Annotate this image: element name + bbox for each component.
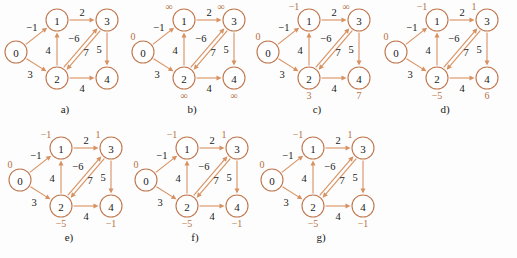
distance-label-node-2: −5 <box>56 218 67 229</box>
graph-node-2[interactable]: 2 <box>50 195 72 217</box>
graph-node-3[interactable]: 3 <box>352 137 374 159</box>
graph-canvas-d: −1324−6754013240−11−56 <box>380 0 510 100</box>
edge-weight-3-2: −6 <box>72 161 83 172</box>
distance-label-node-3: 1 <box>472 1 477 12</box>
edge-weight-1-3: 2 <box>459 7 464 18</box>
edge-weight-2-4: 4 <box>459 83 465 94</box>
node-label-1: 1 <box>58 143 64 155</box>
edge-2-to-1 <box>59 161 64 194</box>
distance-label-node-3: 1 <box>222 129 227 140</box>
graph-node-3[interactable]: 3 <box>223 9 245 31</box>
edge-weight-2-1: 4 <box>45 45 51 56</box>
graph-node-1[interactable]: 1 <box>426 9 448 31</box>
graph-node-3[interactable]: 3 <box>96 9 118 31</box>
graph-node-2[interactable]: 2 <box>46 67 68 89</box>
edge-2-to-1 <box>182 33 187 66</box>
distance-label-node-0: 0 <box>8 159 13 170</box>
node-label-3: 3 <box>108 143 114 155</box>
distance-label-node-4: −1 <box>232 218 243 229</box>
graph-node-3[interactable]: 3 <box>476 9 498 31</box>
edge-1-to-3-arrowhead <box>220 146 225 151</box>
distance-label-node-3: 1 <box>96 129 101 140</box>
graph-node-2[interactable]: 2 <box>298 67 320 89</box>
node-label-1: 1 <box>181 15 187 27</box>
distance-label-node-2: −5 <box>432 90 443 101</box>
distance-label-node-4: −1 <box>106 218 117 229</box>
edge-3-to-4-arrowhead <box>361 189 366 194</box>
edge-2-to-4 <box>74 204 99 209</box>
edge-2-to-4-arrowhead <box>217 76 222 81</box>
distance-label-node-1: ∞ <box>165 1 172 12</box>
graph-node-1[interactable]: 1 <box>50 137 72 159</box>
node-label-3: 3 <box>104 15 110 27</box>
edge-3-to-4 <box>232 33 237 66</box>
edge-weight-3-2: −6 <box>68 33 79 44</box>
distance-label-node-0: 0 <box>131 31 136 42</box>
graph-canvas-b: −1324−6754013240∞∞∞∞ <box>127 0 257 100</box>
graph-node-4[interactable]: 4 <box>352 195 374 217</box>
edge-3-to-4 <box>105 33 110 66</box>
panel-caption-g: g) <box>256 231 386 243</box>
edge-2-to-4 <box>326 204 351 209</box>
graph-node-2[interactable]: 2 <box>176 195 198 217</box>
panel-caption-c: c) <box>252 103 382 115</box>
graph-node-4[interactable]: 4 <box>226 195 248 217</box>
graph-node-0[interactable]: 0 <box>9 169 31 191</box>
distance-label-node-1: −1 <box>41 129 52 140</box>
edge-1-to-3 <box>70 18 95 23</box>
edge-2-to-1-arrowhead <box>435 33 440 38</box>
edge-weight-0-1: −1 <box>406 22 417 33</box>
graph-node-0[interactable]: 0 <box>135 169 157 191</box>
graph-node-1[interactable]: 1 <box>173 9 195 31</box>
node-label-3: 3 <box>484 15 490 27</box>
graph-node-0[interactable]: 0 <box>261 169 283 191</box>
graph-node-4[interactable]: 4 <box>476 67 498 89</box>
distance-label-node-4: ∞ <box>230 90 237 101</box>
edge-weight-0-2: 3 <box>407 69 412 80</box>
graph-node-2[interactable]: 2 <box>302 195 324 217</box>
edge-weight-1-3: 2 <box>331 7 336 18</box>
edge-weight-0-1: −1 <box>282 150 293 161</box>
edge-2-to-1 <box>185 161 190 194</box>
node-label-0: 0 <box>269 175 275 187</box>
edge-weight-3-2: −6 <box>448 33 459 44</box>
graph-node-4[interactable]: 4 <box>96 67 118 89</box>
edge-2-to-4 <box>450 76 475 81</box>
graph-node-2[interactable]: 2 <box>173 67 195 89</box>
graph-canvas-f: −1324−6754013240−11−5−1 <box>130 128 260 228</box>
graph-node-4[interactable]: 4 <box>348 67 370 89</box>
distance-label-node-4: 7 <box>357 90 362 101</box>
graph-node-0[interactable]: 0 <box>385 41 407 63</box>
edge-3-to-4 <box>485 33 490 66</box>
distance-label-node-4: −1 <box>358 218 369 229</box>
graph-node-1[interactable]: 1 <box>46 9 68 31</box>
graph-node-1[interactable]: 1 <box>176 137 198 159</box>
graph-node-0[interactable]: 0 <box>5 41 27 63</box>
graph-node-4[interactable]: 4 <box>100 195 122 217</box>
graph-node-4[interactable]: 4 <box>223 67 245 89</box>
edge-weight-0-1: −1 <box>156 150 167 161</box>
graph-node-3[interactable]: 3 <box>100 137 122 159</box>
edge-weight-2-3: 7 <box>339 175 344 186</box>
distance-label-node-4: 6 <box>485 90 490 101</box>
graph-node-0[interactable]: 0 <box>257 41 279 63</box>
distance-label-node-2: 3 <box>307 90 312 101</box>
graph-node-1[interactable]: 1 <box>302 137 324 159</box>
node-label-3: 3 <box>231 15 237 27</box>
graph-node-2[interactable]: 2 <box>426 67 448 89</box>
edge-weight-0-2: 3 <box>279 69 284 80</box>
edge-3-to-4 <box>109 161 114 194</box>
node-label-4: 4 <box>108 201 114 213</box>
graph-node-1[interactable]: 1 <box>298 9 320 31</box>
graph-node-3[interactable]: 3 <box>226 137 248 159</box>
edge-weight-3-2: −6 <box>195 33 206 44</box>
edge-2-to-1-arrowhead <box>311 161 316 166</box>
graph-node-3[interactable]: 3 <box>348 9 370 31</box>
distance-label-node-2: −5 <box>308 218 319 229</box>
node-label-3: 3 <box>356 15 362 27</box>
edge-3-to-4-arrowhead <box>232 61 237 66</box>
graph-node-0[interactable]: 0 <box>132 41 154 63</box>
edge-3-to-4-arrowhead <box>105 61 110 66</box>
edge-weight-2-3: 7 <box>210 47 215 58</box>
edge-2-to-1 <box>435 33 440 66</box>
